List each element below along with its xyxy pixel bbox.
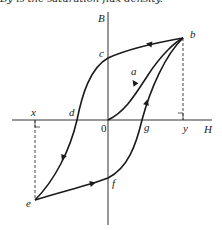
b-axis-label: B <box>98 12 105 24</box>
arrow-g-to-b-icon <box>143 98 150 105</box>
point-b-label: b <box>190 28 196 40</box>
hysteresis-diagram: B H 0 a b c d e f g x y <box>0 0 222 230</box>
point-y-label: y <box>182 122 188 134</box>
point-x-label: x <box>30 106 36 118</box>
x-right-angle-marker <box>35 120 40 127</box>
arrow-e-to-f-icon <box>89 180 96 187</box>
point-c-label: c <box>99 47 104 59</box>
point-g-label: g <box>144 121 150 133</box>
arrow-0-to-a-icon <box>130 78 138 86</box>
point-f-label: f <box>112 177 117 189</box>
point-e-label: e <box>26 197 31 209</box>
y-right-angle-marker <box>178 113 183 120</box>
origin-label: 0 <box>101 122 107 134</box>
arrow-b-to-c-icon <box>146 41 153 48</box>
h-axis-label: H <box>203 123 213 135</box>
point-a-label: a <box>131 65 137 77</box>
point-d-label: d <box>69 106 75 118</box>
